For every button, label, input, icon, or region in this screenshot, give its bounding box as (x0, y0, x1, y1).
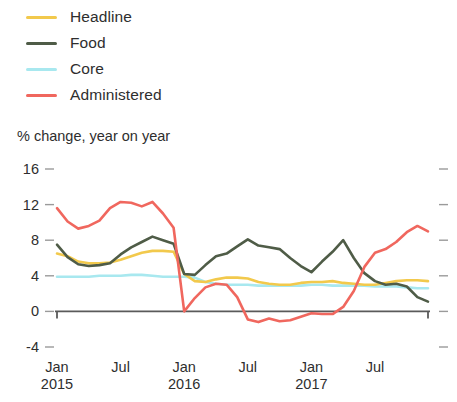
y-tick-label-16: 16 (5, 161, 39, 177)
x-tick-label-jul: Jul (239, 359, 258, 375)
x-tick-label-jan2017: Jan2017 (295, 359, 327, 392)
y-tick-label-0: 0 (5, 303, 39, 319)
x-tick-month: Jan (41, 359, 73, 375)
series-line-food (57, 237, 428, 302)
x-tick-month: Jul (239, 359, 258, 375)
x-tick-year: 2017 (295, 376, 327, 392)
chart-plot-area (0, 0, 457, 402)
x-tick-label-jan2016: Jan2016 (168, 359, 200, 392)
x-tick-year: 2016 (168, 376, 200, 392)
x-tick-label-jan2015: Jan2015 (41, 359, 73, 392)
x-tick-month: Jan (168, 359, 200, 375)
y-tick-label-4: 4 (5, 268, 39, 284)
x-tick-label-jul: Jul (366, 359, 385, 375)
x-tick-label-jul: Jul (111, 359, 130, 375)
y-tick-label-12: 12 (5, 197, 39, 213)
x-tick-month: Jan (295, 359, 327, 375)
y-tick-label-8: 8 (5, 232, 39, 248)
y-tick-label--4: -4 (5, 339, 39, 355)
x-tick-month: Jul (366, 359, 385, 375)
x-tick-month: Jul (111, 359, 130, 375)
x-tick-year: 2015 (41, 376, 73, 392)
line-chart-svg (0, 0, 457, 402)
